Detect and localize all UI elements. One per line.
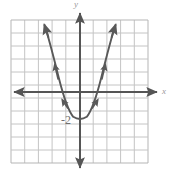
- vertex-value-label: -2: [61, 113, 71, 128]
- x-axis-label: x: [162, 86, 166, 96]
- coordinate-graph-figure: y x -2: [0, 0, 170, 172]
- graph-canvas: [0, 0, 170, 172]
- y-axis-label: y: [74, 0, 78, 9]
